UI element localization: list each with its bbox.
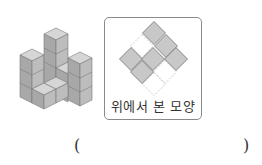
top-view-frame: 위에서 본 모양 xyxy=(104,17,202,120)
top-view-caption: 위에서 본 모양 xyxy=(105,96,201,115)
top-view-grid-icon xyxy=(105,18,203,98)
answer-blank[interactable] xyxy=(86,136,238,156)
close-paren: ) xyxy=(243,136,249,155)
cube-stack-icon xyxy=(14,22,94,114)
cube-stack-figure xyxy=(14,22,94,114)
open-paren: ( xyxy=(74,136,80,155)
